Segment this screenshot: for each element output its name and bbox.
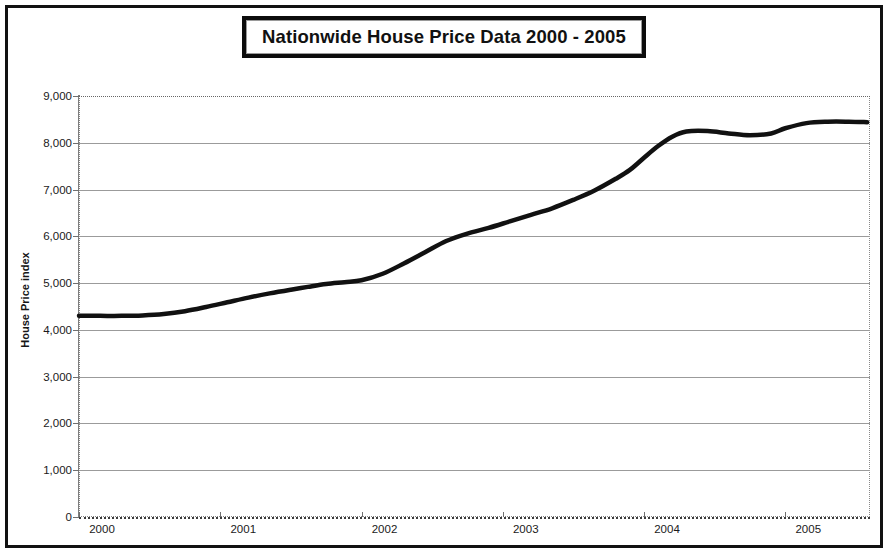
x-tick-2000 <box>79 512 80 517</box>
y-axis-label-0: 0 <box>66 511 72 523</box>
x-axis-label-2005: 2005 <box>795 523 821 535</box>
x-axis-label-2000: 2000 <box>89 523 115 535</box>
y-axis-label-8000: 8,000 <box>43 137 72 149</box>
x-tick-2002 <box>362 512 363 517</box>
plot-area <box>79 96 870 517</box>
data-series-line <box>79 96 870 517</box>
gridline-0 <box>79 517 870 520</box>
chart-screenshot: Nationwide House Price Data 2000 - 2005 … <box>0 0 888 557</box>
y-axis-label-4000: 4,000 <box>43 324 72 336</box>
x-axis-label-2001: 2001 <box>230 523 256 535</box>
x-axis-label-2003: 2003 <box>513 523 539 535</box>
x-tick-2003 <box>503 512 504 517</box>
x-tick-2004 <box>644 512 645 517</box>
y-axis-label-3000: 3,000 <box>43 371 72 383</box>
y-axis-tick-labels: 01,0002,0003,0004,0005,0006,0007,0008,00… <box>18 0 72 557</box>
y-axis-label-5000: 5,000 <box>43 277 72 289</box>
x-axis-label-2002: 2002 <box>372 523 398 535</box>
house-price-index-line <box>79 122 867 316</box>
y-axis-label-1000: 1,000 <box>43 464 72 476</box>
y-axis-label-6000: 6,000 <box>43 230 72 242</box>
chart-title-inner-border: Nationwide House Price Data 2000 - 2005 <box>246 20 642 54</box>
y-axis-label-7000: 7,000 <box>43 184 72 196</box>
x-axis-label-2004: 2004 <box>654 523 680 535</box>
x-tick-2005 <box>785 512 786 517</box>
x-tick-2001 <box>220 512 221 517</box>
y-axis-label-9000: 9,000 <box>43 90 72 102</box>
y-axis-label-2000: 2,000 <box>43 417 72 429</box>
page-title: Nationwide House Price Data 2000 - 2005 <box>262 26 626 48</box>
chart-title-box: Nationwide House Price Data 2000 - 2005 <box>242 16 646 58</box>
